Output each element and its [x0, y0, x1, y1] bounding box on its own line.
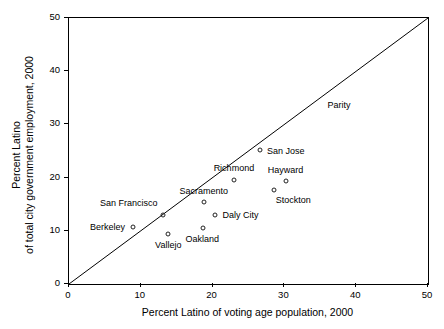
plot-svg	[69, 18, 428, 284]
data-point-label: Berkeley	[90, 223, 125, 232]
y-tick	[64, 283, 68, 284]
x-tick	[212, 283, 213, 287]
data-point-label: Richmond	[214, 164, 255, 173]
x-axis-title: Percent Latino of voting age population,…	[68, 306, 427, 318]
data-point-label: San Francisco	[100, 199, 158, 208]
x-tick	[68, 283, 69, 287]
x-tick	[427, 283, 428, 287]
data-point-marker	[232, 177, 237, 182]
data-point-marker	[213, 212, 218, 217]
data-point-marker	[201, 200, 206, 205]
plot-area: San JoseRichmondHaywardStocktonSacrament…	[68, 17, 429, 285]
scatter-plot-figure: San JoseRichmondHaywardStocktonSacrament…	[0, 0, 444, 329]
data-point-label: San Jose	[267, 147, 305, 156]
y-tick	[64, 177, 68, 178]
y-tick	[64, 70, 68, 71]
x-tick	[283, 283, 284, 287]
y-axis-title-line1: Percent Latino	[10, 15, 23, 295]
x-tick-label: 20	[206, 290, 217, 300]
y-tick	[64, 230, 68, 231]
data-point-label: Vallejo	[155, 241, 181, 250]
y-tick	[64, 123, 68, 124]
y-tick	[64, 17, 68, 18]
data-point-label: Sacramento	[179, 187, 228, 196]
y-tick-label: 30	[40, 119, 60, 129]
data-point-marker	[200, 226, 205, 231]
data-point-label: Hayward	[268, 166, 304, 175]
x-tick-label: 40	[350, 290, 361, 300]
data-point-marker	[130, 225, 135, 230]
y-tick-label: 0	[40, 278, 60, 288]
data-point-marker	[161, 212, 166, 217]
y-tick-label: 10	[40, 225, 60, 235]
x-tick-label: 0	[65, 290, 70, 300]
y-tick-label: 40	[40, 65, 60, 75]
data-point-marker	[166, 231, 171, 236]
y-axis-title-line2: of total city government employment, 200…	[23, 15, 36, 295]
y-tick-label: 20	[40, 172, 60, 182]
data-point-label: Oakland	[186, 235, 220, 244]
data-point-label: Daly City	[222, 211, 258, 220]
data-point-label: Stockton	[276, 196, 311, 205]
y-axis-title: Percent Latino of total city government …	[10, 15, 36, 295]
parity-label: Parity	[327, 101, 350, 110]
x-tick-label: 50	[422, 290, 433, 300]
data-point-marker	[283, 179, 288, 184]
x-tick	[355, 283, 356, 287]
parity-reference-line	[69, 18, 428, 284]
x-tick-label: 10	[135, 290, 146, 300]
x-tick-label: 30	[278, 290, 289, 300]
data-point-marker	[271, 188, 276, 193]
x-tick	[140, 283, 141, 287]
y-tick-label: 50	[40, 12, 60, 22]
data-point-marker	[257, 148, 262, 153]
